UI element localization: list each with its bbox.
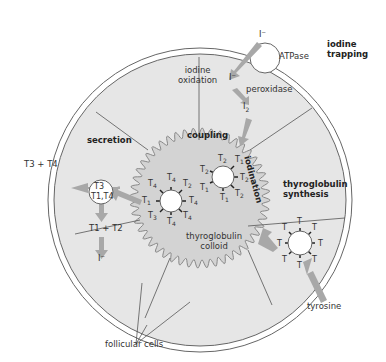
tyrosine-residue-label: T xyxy=(277,240,282,248)
coupled-residue-label: T4 xyxy=(183,212,192,221)
label-secretion: secretion xyxy=(87,136,132,146)
iodinated-residue-label: T2 xyxy=(218,155,227,164)
thyroglobulin-coupled xyxy=(156,187,186,215)
label-atpase: ATPase xyxy=(279,52,309,62)
label-secretion-output: T3 + T4 xyxy=(24,160,58,170)
tyrosine-residue-label: T xyxy=(282,256,287,264)
coupled-residue-label: T4 xyxy=(167,218,176,227)
iodinated-residue-label: T2 xyxy=(240,174,249,183)
label-iodine: I2 xyxy=(243,102,249,114)
tyrosine-residue-label: T xyxy=(297,218,302,226)
coupled-residue-label: T4 xyxy=(148,180,157,189)
label-iodide-inside: I⁻ xyxy=(229,73,236,83)
label-thyroglobulin-colloid: thyroglobulin colloid xyxy=(186,232,242,252)
label-iodine-trapping: iodine trapping xyxy=(327,40,368,60)
label-iodide-released: I⁻ xyxy=(98,254,105,264)
label-follicular-cells: follicular cells xyxy=(105,340,163,350)
tyrosine-residue-label: T xyxy=(312,256,317,264)
iodinated-residue-label: T2 xyxy=(200,166,209,175)
label-vesicle-bottom: T1,T4 xyxy=(91,193,114,201)
coupled-residue-label: T1 xyxy=(142,197,151,206)
coupled-residue-label: T2 xyxy=(183,180,192,189)
tyrosine-residue-label: T xyxy=(282,224,287,232)
coupled-residue-label: T4 xyxy=(167,174,176,183)
label-peroxidase: peroxidase xyxy=(246,85,293,95)
label-iodine-oxidation: iodine oxidation xyxy=(178,66,217,86)
tyrosine-residue-label: T xyxy=(312,224,317,232)
label-tyrosine: tyrosine xyxy=(307,302,341,312)
coupled-residue-label: T3 xyxy=(148,212,157,221)
iodinated-residue-label: T2 xyxy=(235,190,244,199)
label-coupling: coupling xyxy=(187,131,228,141)
tyrosine-residue-label: T xyxy=(318,240,323,248)
label-iodide-outside: I⁻ xyxy=(259,30,266,40)
iodine-subscript: 2 xyxy=(246,106,250,113)
thyroglobulin-synthesizing xyxy=(285,228,315,258)
iodinated-residue-label: T1 xyxy=(235,156,244,165)
iodinated-residue-label: T1 xyxy=(220,194,229,203)
iodinated-residue-label: T1 xyxy=(200,184,209,193)
tyrosine-residue-label: T xyxy=(297,262,302,270)
coupled-residue-label: T4 xyxy=(189,197,198,206)
label-vesicle-top: T3 xyxy=(94,183,104,191)
label-thyroglobulin-synthesis: thyroglobulin synthesis xyxy=(283,180,348,200)
label-recycled: T1 + T2 xyxy=(89,224,123,234)
